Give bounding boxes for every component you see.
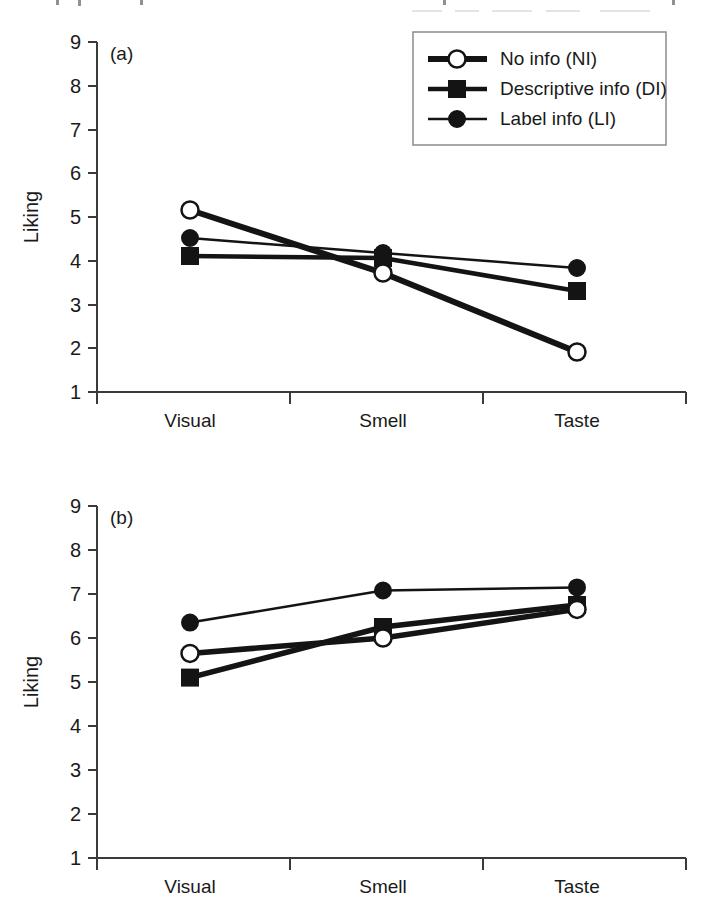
panel-b-ytick-3: 3 (70, 759, 81, 781)
legend-label-no-info: No info (NI) (500, 48, 597, 69)
panel-b-ytick-7: 7 (70, 583, 81, 605)
legend-entry-no-info: No info (NI) (428, 48, 597, 69)
panel-a-ytick-8: 8 (70, 75, 81, 97)
panel-b-ytick-9: 9 (70, 495, 81, 517)
panel-a-point-no-info-taste (569, 344, 586, 361)
panel-b-point-label-info-taste (569, 579, 585, 595)
panel-b-point-no-info-taste (569, 601, 586, 618)
panel-b-point-descriptive-info-visual (182, 670, 198, 686)
panel-a-point-label-info-visual (182, 230, 198, 246)
panel-b-xlabel-smell: Smell (359, 876, 407, 897)
panel-b-x-ticks (97, 858, 686, 870)
panel-a-ytick-2: 2 (70, 337, 81, 359)
panel-b-ytick-5: 5 (70, 671, 81, 693)
legend-entry-label-info: Label info (LI) (428, 108, 616, 129)
panel-b-ytick-8: 8 (70, 539, 81, 561)
panel-b-point-label-info-smell (375, 583, 391, 599)
panel-a-point-no-info-visual (182, 202, 199, 219)
chart-legend: No info (NI) Descriptive info (DI) Label… (413, 32, 667, 145)
panel-b-ytick-4: 4 (70, 715, 81, 737)
panel-b-xlabel-taste: Taste (554, 876, 599, 897)
panel-b-y-ticks (88, 506, 97, 858)
panel-a-point-descriptive-info-visual (182, 248, 198, 264)
panel-b-point-label-info-visual (182, 615, 198, 631)
panel-a-ytick-3: 3 (70, 294, 81, 316)
legend-marker-open-circle-icon (449, 51, 466, 68)
panel-a-xlabel-smell: Smell (359, 410, 407, 431)
panel-a-y-ticks (88, 42, 97, 392)
panel-b-point-no-info-visual (182, 645, 199, 662)
panel-b-ytick-6: 6 (70, 627, 81, 649)
panel-a-point-no-info-smell (375, 265, 392, 282)
panel-b-point-no-info-smell (375, 630, 392, 647)
panel-b-ytick-1: 1 (70, 847, 81, 869)
panel-a-ytick-5: 5 (70, 206, 81, 228)
panel-b-ytick-2: 2 (70, 803, 81, 825)
figure-container: 9 8 7 6 5 4 3 2 1 Visual Smell Taste Lik… (0, 0, 703, 920)
legend-label-label-info: Label info (LI) (500, 108, 616, 129)
panel-b-y-axis-title: Liking (20, 656, 42, 708)
panel-a-x-ticks (97, 392, 686, 404)
panel-a-ytick-7: 7 (70, 119, 81, 141)
chart-panel-b: 9 8 7 6 5 4 3 2 1 Visual Smell Taste Lik… (0, 460, 703, 920)
panel-a-xlabel-visual: Visual (164, 410, 215, 431)
panel-b-tag: (b) (110, 507, 133, 528)
legend-marker-filled-circle-icon (449, 111, 465, 127)
panel-b-xlabel-visual: Visual (164, 876, 215, 897)
panel-a-point-descriptive-info-taste (569, 283, 585, 299)
panel-a-ytick-1: 1 (70, 381, 81, 403)
chart-panel-a: 9 8 7 6 5 4 3 2 1 Visual Smell Taste Lik… (0, 0, 703, 460)
panel-a-ytick-6: 6 (70, 162, 81, 184)
panel-a-ytick-4: 4 (70, 250, 81, 272)
panel-a-point-label-info-taste (569, 260, 585, 276)
legend-entry-descriptive-info: Descriptive info (DI) (428, 78, 667, 99)
legend-marker-filled-square-icon (449, 81, 465, 97)
panel-a-xlabel-taste: Taste (554, 410, 599, 431)
panel-a-y-axis-title: Liking (20, 191, 42, 243)
panel-a-ytick-9: 9 (70, 31, 81, 53)
panel-a-tag: (a) (110, 43, 133, 64)
legend-label-descriptive-info: Descriptive info (DI) (500, 78, 667, 99)
